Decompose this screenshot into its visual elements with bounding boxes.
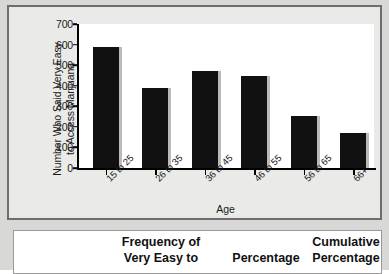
y-tick-label-700: 700	[56, 18, 73, 30]
y-tick-label-400: 400	[56, 80, 73, 92]
y-tick-label-200: 200	[56, 121, 73, 133]
chart-panel: Number Who Said Very Easy to Access Mari…	[7, 5, 382, 220]
bar-46-to-55	[241, 76, 267, 168]
y-tick-label-300: 300	[56, 100, 73, 112]
y-tick-label-600: 600	[56, 39, 73, 51]
table-header-frequency: Frequency of Very Easy to	[102, 234, 220, 266]
table-header-row: Frequency of Very Easy to Percentage Cum…	[14, 234, 381, 274]
bar-series	[77, 24, 374, 168]
chart-inner: Number Who Said Very Easy to Access Mari…	[11, 9, 378, 216]
bar-26-to-35	[142, 88, 168, 168]
table-header-cumulative: Cumulative Percentage	[312, 234, 380, 266]
y-tick-label-500: 500	[56, 59, 73, 71]
table-header-percentage: Percentage	[220, 234, 312, 266]
y-axis-ticks: 700 600 500 400 300 200 100 0	[11, 9, 73, 189]
bar-66-plus	[340, 133, 366, 168]
table-panel: Frequency of Very Easy to Percentage Cum…	[13, 230, 382, 274]
bar-56-to-65	[291, 116, 317, 168]
x-axis-title: Age	[77, 203, 374, 215]
y-tick-label-100: 100	[56, 141, 73, 153]
bar-36-to-45	[192, 71, 218, 168]
bar-15-to-25	[93, 47, 119, 168]
